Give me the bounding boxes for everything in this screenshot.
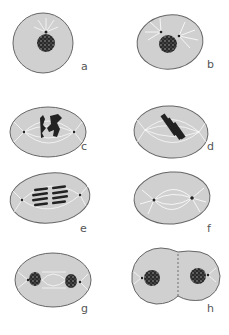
panel-label-h: h bbox=[207, 302, 214, 315]
cell-c bbox=[10, 107, 86, 157]
mitosis-diagram bbox=[0, 0, 229, 335]
panel-label-d: d bbox=[207, 140, 214, 153]
panel-label-e: e bbox=[80, 222, 87, 235]
cell-e bbox=[8, 169, 93, 227]
cell-d bbox=[132, 103, 209, 160]
cell-b bbox=[134, 11, 207, 74]
cell-h bbox=[132, 248, 220, 304]
panel-label-b: b bbox=[207, 58, 214, 71]
panel-label-a: a bbox=[81, 60, 88, 73]
panel-label-g: g bbox=[81, 302, 88, 315]
cell-f bbox=[132, 169, 211, 226]
panel-label-f: f bbox=[207, 222, 211, 235]
cell-a bbox=[13, 13, 73, 73]
cell-g bbox=[15, 253, 91, 307]
panel-label-c: c bbox=[81, 140, 87, 153]
